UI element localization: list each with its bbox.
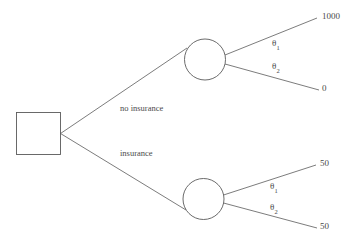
branch-label-insurance: insurance — [120, 149, 153, 158]
theta-subscript: 1 — [275, 187, 278, 194]
theta-subscript: 2 — [275, 208, 278, 215]
payoff-label-50-bottom: 50 — [320, 222, 329, 231]
theta-symbol: θ — [270, 181, 274, 191]
decision-tree-diagram: no insurance insurance θ1 θ2 1000 0 θ1 θ… — [0, 0, 356, 244]
probability-label-theta1-bottom: θ1 — [270, 182, 278, 193]
probability-label-theta2-bottom: θ2 — [270, 203, 278, 214]
chance-node-no-insurance — [185, 39, 226, 80]
edge-no-insurance — [61, 48, 188, 134]
theta-symbol: θ — [272, 38, 276, 48]
probability-label-theta2-top: θ2 — [272, 62, 280, 73]
theta-subscript: 1 — [277, 44, 280, 51]
branch-label-no-insurance: no insurance — [120, 104, 163, 113]
payoff-label-0: 0 — [322, 84, 327, 93]
edge-theta1-top — [225, 18, 317, 55]
chance-node-insurance — [183, 179, 224, 220]
theta-symbol: θ — [272, 61, 276, 71]
edge-insurance — [61, 134, 187, 211]
payoff-label-1000: 1000 — [322, 12, 340, 21]
probability-label-theta1-top: θ1 — [272, 39, 280, 50]
theta-symbol: θ — [270, 202, 274, 212]
theta-subscript: 2 — [277, 67, 280, 74]
decision-tree-canvas — [0, 0, 356, 244]
payoff-label-50-top: 50 — [320, 159, 329, 168]
decision-node-square — [17, 113, 61, 155]
